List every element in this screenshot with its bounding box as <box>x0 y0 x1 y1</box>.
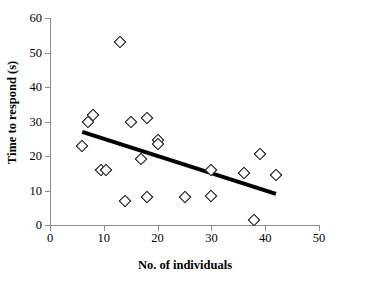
plot-area <box>50 18 319 225</box>
x-axis-line <box>50 225 320 226</box>
x-tick-label: 10 <box>84 232 124 245</box>
y-axis-title: Time to respond (s) <box>5 13 20 213</box>
x-tick-label: 20 <box>138 232 178 245</box>
y-tick-label: 0 <box>0 219 42 232</box>
scatter-chart-figure: 0102030405060 01020304050 Time to respon… <box>0 0 386 293</box>
x-tick-label: 30 <box>191 232 231 245</box>
x-axis-title: No. of individuals <box>50 258 320 273</box>
x-tick-label: 50 <box>299 232 339 245</box>
x-tick-label: 0 <box>30 232 70 245</box>
x-tick-label: 40 <box>245 232 285 245</box>
